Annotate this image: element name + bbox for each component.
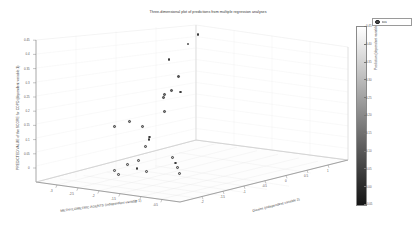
- y-tick-label: -2: [201, 200, 204, 204]
- data-point: [162, 96, 165, 99]
- x-tick-label: -1.5: [111, 197, 116, 201]
- data-point: [113, 125, 116, 128]
- colorbar-tick-label: 0.10: [366, 149, 371, 153]
- z-tick-label: 0.3: [26, 81, 30, 85]
- data-point: [163, 110, 166, 113]
- z-axis-label: PREDICTED VALUE of the SCORE for COPD (d…: [16, 66, 20, 170]
- y-tick-label: -0.5: [262, 184, 267, 188]
- x-tick-label: -2: [92, 194, 95, 198]
- data-point: [178, 172, 181, 175]
- colorbar-tick-label: -0.05: [366, 202, 372, 206]
- y-tick-label: 0: [285, 179, 287, 183]
- y-tick-label: 0.5: [304, 174, 308, 178]
- data-point: [144, 145, 147, 148]
- data-point: [137, 159, 140, 162]
- legend-marker-icon: [375, 20, 380, 25]
- x-tick-label: -2.5: [69, 192, 74, 196]
- data-point: [177, 75, 180, 78]
- colorbar-tick-label: 0.30: [366, 78, 371, 82]
- data-point: [126, 163, 129, 166]
- z-tick-label: 0.15: [24, 123, 30, 127]
- colorbar-axis-label: Prediction (dependent variable): [374, 24, 378, 70]
- z-tick-label: 0: [28, 166, 30, 170]
- data-point: [141, 125, 144, 128]
- z-tick-label: 0.05: [24, 152, 30, 156]
- colorbar-tick-label: 0.40: [366, 42, 371, 46]
- y-tick-label: 1: [327, 169, 329, 173]
- z-tick-label: 0.25: [24, 95, 30, 99]
- data-point: [170, 89, 173, 92]
- legend-box[interactable]: data: [372, 18, 412, 26]
- z-tick-label: 0.1: [26, 138, 30, 142]
- figure-canvas: Three-dimensional plot of predictions fr…: [0, 0, 416, 230]
- colorbar-tick-label: 0.05: [366, 167, 371, 171]
- z-tick-label: 0.2: [26, 109, 30, 113]
- x-tick-label: -3: [50, 189, 53, 193]
- y-tick-label: -1.5: [220, 195, 225, 199]
- z-tick-label: 0.4: [26, 52, 30, 56]
- legend-label: data: [382, 21, 387, 24]
- colorbar-tick-label: 0.45: [366, 24, 371, 28]
- z-tick-label: 0.45: [24, 38, 30, 42]
- colorbar-tick-label: 0.15: [366, 131, 371, 135]
- axes-3d-frame: [0, 0, 416, 230]
- data-point: [171, 156, 174, 159]
- colorbar-tick-label: 0.35: [366, 60, 371, 64]
- x-tick-label: -0.5: [153, 203, 158, 207]
- colorbar-tick-label: 0.00: [366, 185, 371, 189]
- y-tick-label: -1: [243, 190, 246, 194]
- z-tick-marks: [33, 40, 36, 168]
- colorbar-tick-label: 0.20: [366, 113, 371, 117]
- z-tick-label: 0.35: [24, 67, 30, 71]
- colorbar-tick-label: 0.25: [366, 96, 371, 100]
